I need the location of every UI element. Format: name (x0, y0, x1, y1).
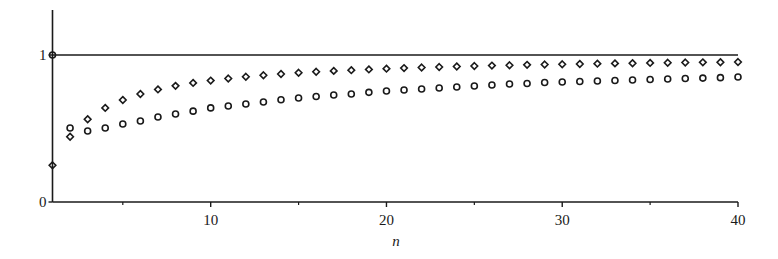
circle-marker (717, 75, 723, 81)
circle-marker (331, 92, 337, 98)
circle-marker (419, 86, 425, 92)
diamond-marker (524, 62, 531, 69)
diamond-marker (506, 62, 513, 69)
circle-marker (436, 85, 442, 91)
diamond-marker (418, 64, 425, 71)
diamond-marker (717, 59, 724, 66)
circle-marker (735, 74, 741, 80)
circle-marker (243, 101, 249, 107)
diamond-marker (541, 61, 548, 68)
circle-marker (682, 76, 688, 82)
diamond-marker (155, 86, 162, 93)
diamond-marker (278, 71, 285, 78)
diamond-marker (594, 60, 601, 67)
circle-marker (630, 77, 636, 83)
diamond-marker (207, 77, 214, 84)
diamond-marker (260, 72, 267, 79)
circle-marker (348, 91, 354, 97)
circle-marker (507, 81, 513, 87)
diamond-marker (172, 83, 179, 90)
circle-marker (471, 83, 477, 89)
diamond-marker (612, 60, 619, 67)
circle-marker (85, 128, 91, 134)
circle-marker (296, 95, 302, 101)
diamond-marker (225, 75, 232, 82)
circle-marker (577, 78, 583, 84)
circle-marker (102, 125, 108, 131)
diamond-marker (243, 73, 250, 80)
diamond-marker (348, 67, 355, 74)
diamond-marker (190, 80, 197, 87)
diamond-marker (700, 59, 707, 66)
diamond-marker (366, 66, 373, 73)
diamond-marker (84, 116, 91, 123)
axes (49, 10, 739, 207)
y-tick-label: 1 (39, 47, 47, 63)
diamond-marker (313, 68, 320, 75)
circle-marker (137, 118, 143, 124)
diamond-marker (629, 60, 636, 67)
circle-marker (208, 105, 214, 111)
data-points (49, 52, 741, 169)
diamond-marker (453, 63, 460, 70)
diamond-marker (67, 133, 74, 140)
circle-marker (647, 77, 653, 83)
x-axis-title: n (392, 233, 400, 249)
x-tick-label: 30 (555, 212, 570, 228)
diamond-marker (102, 105, 109, 112)
circle-marker (260, 99, 266, 105)
circle-marker (665, 76, 671, 82)
y-tick-label: 0 (39, 194, 47, 210)
diamond-marker (471, 63, 478, 70)
circle-marker (366, 89, 372, 95)
diamond-marker (401, 65, 408, 72)
diamond-marker (489, 62, 496, 69)
x-tick-label: 10 (203, 212, 218, 228)
circle-marker (559, 79, 565, 85)
circle-marker (594, 78, 600, 84)
circle-marker (278, 97, 284, 103)
scatter-plot: 1020304001n (0, 0, 778, 259)
diamond-marker (735, 59, 742, 66)
circle-marker (454, 84, 460, 90)
circle-marker (155, 114, 161, 120)
circle-marker (612, 77, 618, 83)
circle-marker (120, 121, 126, 127)
circle-marker (383, 88, 389, 94)
circle-marker (489, 82, 495, 88)
diamond-marker (577, 61, 584, 68)
circle-marker (225, 103, 231, 109)
circle-marker (524, 81, 530, 87)
diamond-marker (330, 68, 337, 75)
diamond-marker (559, 61, 566, 68)
circle-marker (190, 108, 196, 114)
circle-marker (313, 93, 319, 99)
diamond-marker (295, 69, 302, 76)
x-tick-label: 40 (731, 212, 746, 228)
diamond-marker (436, 64, 443, 71)
tick-labels: 1020304001n (39, 47, 746, 249)
circle-marker (542, 79, 548, 85)
x-tick-label: 20 (379, 212, 394, 228)
diamond-marker (120, 97, 127, 104)
circle-marker (401, 87, 407, 93)
diamond-marker (383, 65, 390, 72)
diamond-marker (682, 59, 689, 66)
circle-marker (700, 75, 706, 81)
diamond-marker (664, 59, 671, 66)
circle-marker (67, 125, 73, 131)
diamond-marker (137, 91, 144, 98)
diamond-marker (647, 60, 654, 67)
circle-marker (173, 111, 179, 117)
